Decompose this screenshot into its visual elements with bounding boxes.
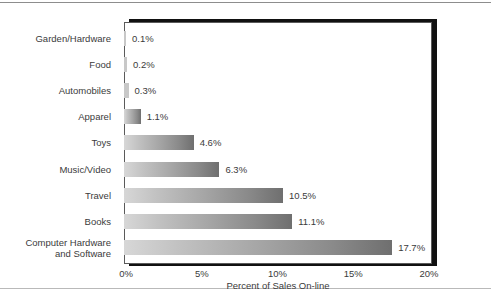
bar (124, 31, 126, 46)
bar-rows: 0.1% 0.2% 0.3% 1.1% 4.6% 6.3% 10.5% 11. (124, 23, 431, 263)
x-tick: 10% (268, 268, 287, 279)
x-tick: 5% (195, 268, 209, 279)
bar-value-label: 0.3% (135, 85, 157, 96)
bar-row: 10.5% (124, 183, 431, 207)
category-label: Travel (0, 183, 118, 207)
category-label: Music/Video (0, 157, 118, 181)
bar (124, 109, 141, 124)
bar-value-label: 1.1% (147, 111, 169, 122)
category-label: Garden/Hardware (0, 26, 118, 50)
bar-value-label: 11.1% (298, 216, 324, 227)
x-tick: 20% (419, 268, 438, 279)
bar-chart-figure: Garden/Hardware Food Automobiles Apparel… (0, 8, 491, 288)
bar-row: 0.1% (124, 26, 431, 50)
bar-value-label: 17.7% (398, 242, 425, 253)
bar (124, 214, 292, 229)
bar-row: 11.1% (124, 210, 431, 234)
category-label: Food (0, 52, 118, 76)
category-label: Books (0, 210, 118, 234)
bar (124, 57, 127, 72)
bar (124, 240, 392, 255)
category-label: Automobiles (0, 79, 118, 103)
bar (124, 83, 129, 98)
bar-value-label: 4.6% (200, 137, 222, 148)
bar-row: 6.3% (124, 157, 431, 181)
category-label: Computer Hardware and Software (0, 236, 118, 260)
bar (124, 188, 283, 203)
bar-row: 0.3% (124, 79, 431, 103)
bar-row: 1.1% (124, 105, 431, 129)
bar-row: 0.2% (124, 52, 431, 76)
category-label: Toys (0, 131, 118, 155)
page-rule-top (0, 2, 491, 3)
category-axis-labels: Garden/Hardware Food Automobiles Apparel… (0, 23, 118, 263)
bar (124, 162, 219, 177)
x-axis-title: Percent of Sales On-line (124, 280, 432, 291)
bar-row: 17.7% (124, 236, 431, 260)
x-tick: 0% (119, 268, 133, 279)
category-label: Apparel (0, 105, 118, 129)
bar-value-label: 10.5% (289, 190, 316, 201)
x-tick: 15% (344, 268, 363, 279)
bar (124, 135, 194, 150)
bar-value-label: 0.2% (133, 59, 155, 70)
bar-value-label: 0.1% (132, 33, 154, 44)
bar-value-label: 6.3% (225, 164, 247, 175)
bar-row: 4.6% (124, 131, 431, 155)
